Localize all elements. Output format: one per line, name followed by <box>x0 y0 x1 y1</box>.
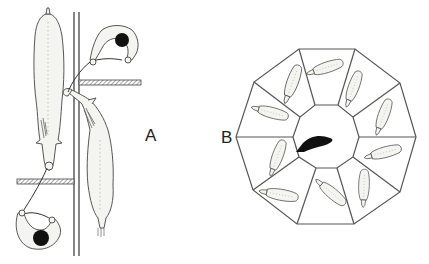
stall-animal-7 <box>312 175 348 208</box>
rope-left <box>22 168 47 213</box>
panel-a <box>16 8 141 256</box>
panel-b-label: B <box>221 129 232 146</box>
stall-animal-2 <box>305 57 345 79</box>
panel-a-label: A <box>145 127 156 144</box>
panel-b <box>236 49 416 224</box>
stall-animal-9 <box>265 138 288 178</box>
stall-animal-6 <box>358 169 370 208</box>
center-animal <box>296 136 332 152</box>
cow-left <box>34 8 64 170</box>
cow-right <box>63 89 113 238</box>
stall-animal-1 <box>279 63 304 105</box>
stall-animal-3 <box>341 69 364 109</box>
stall-animal-5 <box>363 143 403 163</box>
inner-decagon <box>293 105 359 168</box>
stall-animal-4 <box>371 97 394 137</box>
illustration-canvas <box>0 0 429 264</box>
worker-lower <box>16 210 60 249</box>
rail-lower <box>17 179 74 184</box>
stall-animals <box>250 57 403 208</box>
rail-upper <box>79 80 141 85</box>
stall-animal-8 <box>258 185 299 203</box>
